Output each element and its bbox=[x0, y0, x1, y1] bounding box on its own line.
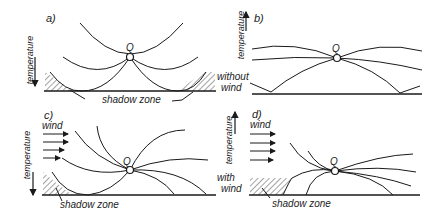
temperature-axis-c: temperature bbox=[22, 131, 33, 195]
axis-label-a: temperature bbox=[25, 36, 35, 85]
axis-label-d: temperature bbox=[224, 116, 234, 165]
axis-label-b: temperature bbox=[236, 11, 246, 60]
panel-label-a: a) bbox=[46, 12, 56, 24]
sound-propagation-diagram: a) temperature Q shadow zone without win… bbox=[0, 0, 442, 221]
source-label-a: Q bbox=[126, 42, 134, 53]
panel-label-b: b) bbox=[254, 12, 264, 24]
wind-label-d: wind bbox=[250, 119, 271, 130]
shadow-zone-label-d: shadow zone bbox=[272, 198, 331, 209]
source-point-q-c bbox=[127, 167, 134, 174]
condition-without-wind-line1: without bbox=[217, 71, 250, 82]
shadow-zone-label-c: shadow zone bbox=[60, 199, 119, 210]
axis-label-c: temperature bbox=[22, 131, 32, 180]
source-label-c: Q bbox=[123, 156, 131, 167]
shadow-zone-label-a: shadow zone bbox=[102, 94, 161, 105]
temperature-axis-b: temperature bbox=[236, 11, 246, 60]
source-point-q-d bbox=[332, 168, 339, 175]
panel-d: d) temperature wind Q shadow zone bbox=[224, 108, 420, 209]
shadow-zone-d bbox=[250, 178, 292, 195]
panel-b: b) temperature Q bbox=[236, 11, 422, 94]
wind-arrows-c bbox=[43, 134, 68, 158]
condition-with-wind-line2: wind bbox=[221, 183, 242, 194]
wind-arrows-d bbox=[250, 134, 275, 160]
temperature-axis-a: temperature bbox=[25, 36, 35, 86]
shadow-zone-right-a bbox=[178, 72, 215, 91]
condition-with-wind-line1: with bbox=[217, 172, 235, 183]
source-point-q-b bbox=[334, 55, 341, 62]
temperature-axis-d: temperature bbox=[224, 112, 235, 164]
condition-without-wind-line2: wind bbox=[221, 82, 242, 93]
panel-a: a) temperature Q shadow zone bbox=[25, 12, 216, 105]
source-label-d: Q bbox=[330, 156, 338, 167]
source-point-q-a bbox=[127, 54, 134, 61]
source-label-b: Q bbox=[332, 43, 340, 54]
wind-label-c: wind bbox=[42, 120, 63, 131]
panel-c: c) temperature wind Q shadow zone bbox=[22, 109, 216, 210]
